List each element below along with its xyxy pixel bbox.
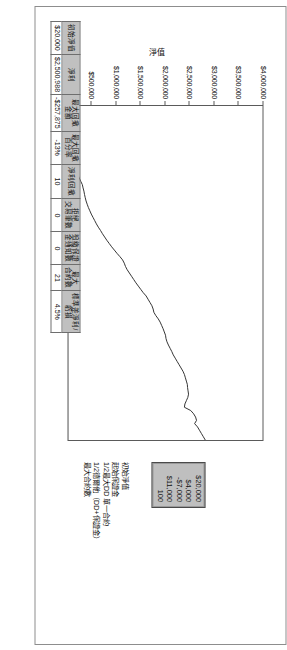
table-cell-value: $2,500,988: [51, 55, 62, 95]
y-axis-tick-label: $2,500,000: [187, 21, 194, 99]
parameter-value: $4,000: [183, 467, 193, 502]
parameter-labels: 初始淨值起始保證金1/2最大DD 單一合約1/2德爾他（DD+保證金）最大合約數: [82, 462, 130, 543]
parameter-value: $20,000: [193, 467, 203, 502]
parameter-label: 1/2德爾他（DD+保證金）: [91, 462, 101, 543]
y-axis-tick-label: $3,500,000: [236, 21, 243, 99]
y-axis-tick-label: $1,000,000: [113, 21, 120, 99]
parameter-label: 最大合約數: [82, 462, 92, 543]
y-axis-tick-mark: [189, 101, 190, 105]
y-axis-tick-label: $500,000: [89, 21, 96, 99]
parameter-block: $20,000$4,000-$7,000$11,000100 初始淨值起始保證金…: [34, 462, 262, 648]
table-cell-value: -$257,875: [51, 95, 62, 132]
table-column-header: 淨利: [62, 55, 80, 95]
table-column-header: 最大回撤 百分率: [62, 131, 80, 164]
table-column-header: 最大回撤 金額: [62, 95, 80, 132]
parameter-value: 100: [155, 467, 165, 502]
table-column-header: 初始淨值: [62, 22, 80, 55]
y-axis-tick-mark: [165, 101, 166, 105]
y-axis-tick-mark: [238, 101, 239, 105]
table-row: $20,000$2,500,988-$257,875-13%1000214.5%: [51, 22, 62, 333]
y-axis-tick-label: $3,000,000: [211, 21, 218, 99]
y-axis-tick-mark: [140, 101, 141, 105]
parameter-label: 1/2最大DD 單一合約: [101, 462, 111, 543]
equity-line: [69, 106, 205, 440]
statistics-table: 初始淨值淨利最大回撤 金額最大回撤 百分率淨利/回撤拒絕 交易筆數追繳保證 金通…: [51, 21, 81, 333]
plot-area: [68, 105, 262, 441]
y-axis-tick-label: $1,500,000: [138, 21, 145, 99]
table-cell-value: 0: [51, 199, 62, 232]
equity-curve-svg: [69, 106, 262, 440]
parameter-value: -$7,000: [174, 467, 184, 502]
y-axis-tick-mark: [214, 101, 215, 105]
table-column-header: 淨利/回撤: [62, 164, 80, 199]
table-column-header: 追繳保證 金通知數: [62, 232, 80, 265]
table-cell-value: $20,000: [51, 22, 62, 55]
table-cell-value: 4.5%: [51, 291, 62, 333]
table-header-row: 初始淨值淨利最大回撤 金額最大回撤 百分率淨利/回撤拒絕 交易筆數追繳保證 金通…: [62, 22, 80, 333]
y-axis-tick-label: $4,000,000: [260, 21, 261, 99]
parameter-value: $11,000: [164, 467, 174, 502]
parameter-label: 初始淨值: [120, 462, 130, 543]
y-axis-tick-mark: [116, 101, 117, 105]
table-column-header: 拒絕 交易筆數: [62, 199, 80, 232]
report-page: 淨值 $4,000,000$3,500,000$3,000,000$2,500,…: [30, 0, 262, 650]
parameter-values-box: $20,000$4,000-$7,000$11,000100: [152, 462, 206, 508]
table-cell-value: 0: [51, 232, 62, 265]
parameter-label: 起始保證金: [110, 462, 120, 543]
table-column-header: 標準差淨利/ 虧損: [62, 291, 80, 333]
table-column-header: 最大 合約數: [62, 265, 80, 291]
table-cell-value: 10: [51, 164, 62, 199]
y-axis-tick-label: $2,000,000: [162, 21, 169, 99]
table-cell-value: 21: [51, 265, 62, 291]
table-cell-value: -13%: [51, 131, 62, 164]
report-sheet: 淨值 $4,000,000$3,500,000$3,000,000$2,500,…: [35, 6, 262, 645]
y-axis-tick-mark: [91, 101, 92, 105]
